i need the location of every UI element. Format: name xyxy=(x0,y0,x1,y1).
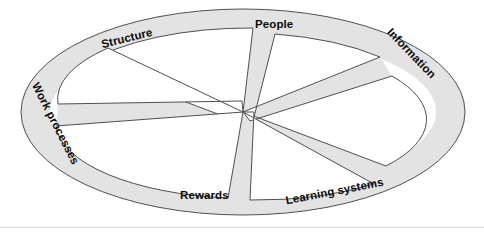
baseline-rule xyxy=(0,227,484,228)
wheel-spoke-diagram: Structure People Information Work proces… xyxy=(0,0,484,233)
wheel-diagram-graphic xyxy=(0,0,484,233)
